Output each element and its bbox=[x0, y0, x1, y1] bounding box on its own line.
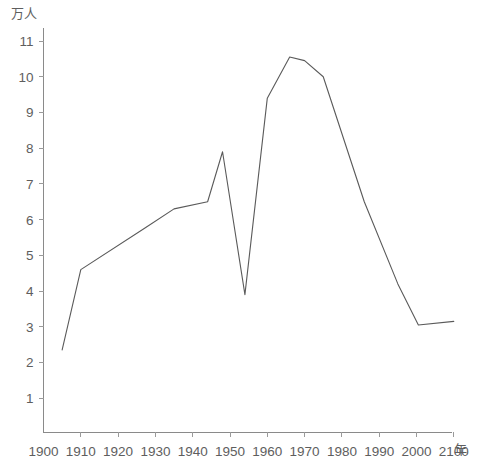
x-tick-label: 1980 bbox=[327, 444, 357, 459]
y-axis-ticks bbox=[39, 41, 44, 398]
x-tick-label: 1940 bbox=[178, 444, 208, 459]
axis-lines bbox=[44, 28, 453, 432]
data-line-population bbox=[62, 57, 454, 350]
x-axis-tick-labels: 1900191019201930194019501960197019801990… bbox=[28, 444, 468, 459]
x-tick-label: 1960 bbox=[252, 444, 282, 459]
y-tick-label: 10 bbox=[18, 70, 33, 85]
x-axis-ticks bbox=[81, 432, 454, 437]
x-axis-unit-label: 年 bbox=[454, 442, 467, 457]
chart-canvas: 1234567891011 19001910192019301940195019… bbox=[0, 0, 477, 470]
line-chart-figure: 1234567891011 19001910192019301940195019… bbox=[0, 0, 477, 470]
data-series-group bbox=[62, 57, 454, 350]
x-tick-label: 1910 bbox=[66, 444, 96, 459]
y-tick-label: 6 bbox=[26, 213, 34, 228]
axes-group bbox=[44, 28, 453, 432]
x-tick-label: 1920 bbox=[103, 444, 133, 459]
y-tick-label: 7 bbox=[26, 177, 34, 192]
y-tick-label: 2 bbox=[26, 355, 34, 370]
y-axis-unit-label: 万人 bbox=[11, 6, 37, 21]
y-axis-tick-labels: 1234567891011 bbox=[18, 34, 34, 406]
x-tick-label: 1930 bbox=[140, 444, 170, 459]
y-tick-label: 9 bbox=[26, 105, 34, 120]
x-tick-label: 1990 bbox=[364, 444, 394, 459]
x-tick-label: 1970 bbox=[290, 444, 320, 459]
y-tick-label: 4 bbox=[26, 284, 34, 299]
y-tick-label: 1 bbox=[26, 391, 34, 406]
x-tick-label: 1900 bbox=[28, 444, 58, 459]
y-tick-label: 11 bbox=[19, 34, 33, 49]
x-tick-label: 2000 bbox=[401, 444, 431, 459]
y-tick-label: 3 bbox=[26, 320, 34, 335]
y-tick-label: 5 bbox=[26, 248, 34, 263]
x-tick-label: 1950 bbox=[215, 444, 245, 459]
y-tick-label: 8 bbox=[26, 141, 34, 156]
